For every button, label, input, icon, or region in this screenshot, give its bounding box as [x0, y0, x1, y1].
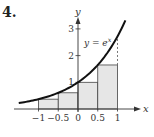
x-tick-label: 1: [115, 113, 121, 123]
riemann-rectangle: [58, 93, 78, 109]
x-tick-label: −0.5: [47, 113, 69, 123]
x-axis-arrow-icon: [134, 107, 141, 112]
x-ticks: −1−0.500.51: [32, 109, 121, 123]
riemann-rectangle: [78, 82, 98, 109]
x-axis-label: x: [143, 103, 149, 114]
x-tick-label: −1: [32, 113, 45, 123]
y-axis-arrow-icon: [76, 17, 81, 24]
riemann-rectangle: [98, 65, 118, 109]
y-axis-label: y: [74, 6, 81, 17]
x-tick-label: 0: [75, 113, 81, 123]
riemann-sum-plot: −1−0.500.51 123 x y y = ex: [0, 0, 154, 137]
riemann-rectangle: [39, 99, 59, 109]
function-label: y = ex: [83, 36, 112, 48]
y-tick-label: 2: [68, 51, 74, 61]
y-tick-label: 3: [68, 24, 74, 34]
x-tick-label: 0.5: [91, 113, 106, 123]
y-ticks: 123: [68, 24, 80, 87]
